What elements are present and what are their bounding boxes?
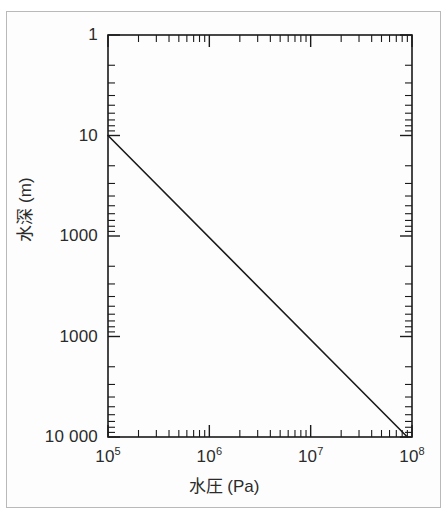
xtick-mantissa-1e5: 10 — [95, 447, 114, 466]
ytick-label-1000: 1000 — [22, 327, 98, 347]
xtick-mantissa-1e7: 10 — [298, 447, 317, 466]
y-axis-title: 水深 (m) — [11, 150, 36, 270]
ytick-label-1: 1 — [22, 25, 98, 45]
chart-figure: 1 10 1000 1000 10 000 105 106 107 108 水圧… — [0, 0, 448, 521]
data-line-0 — [108, 136, 407, 438]
data-series-layer — [108, 136, 407, 438]
xtick-exponent-1e6: 6 — [216, 445, 222, 457]
xtick-label-1e7: 107 — [298, 445, 323, 467]
xtick-exponent-1e5: 5 — [115, 445, 121, 457]
xtick-mantissa-1e6: 10 — [197, 447, 216, 466]
xtick-label-1e5: 105 — [95, 445, 120, 467]
xtick-mantissa-1e8: 10 — [399, 447, 418, 466]
ytick-label-10: 10 — [22, 126, 98, 146]
ytick-label-10000: 10 000 — [12, 427, 98, 447]
xtick-exponent-1e8: 8 — [419, 445, 425, 457]
axis-ticks — [108, 35, 412, 437]
x-axis-title: 水圧 (Pa) — [0, 472, 448, 497]
xtick-exponent-1e7: 7 — [317, 445, 323, 457]
xtick-label-1e8: 108 — [399, 445, 424, 467]
xtick-label-1e6: 106 — [197, 445, 222, 467]
plot-frame — [108, 35, 412, 437]
